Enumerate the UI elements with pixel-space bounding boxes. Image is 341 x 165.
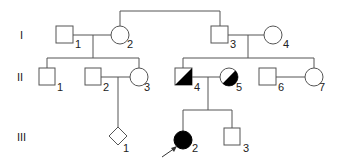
- generation-label-i: I: [20, 29, 23, 41]
- generation-label-iii: III: [17, 131, 26, 143]
- individual-i3-male-symbol: [211, 26, 228, 43]
- number-iii2: 2: [192, 142, 198, 154]
- individual-ii1-male-symbol: [39, 68, 55, 85]
- proband-arrow-icon: [162, 146, 177, 157]
- number-ii3: 3: [144, 81, 150, 93]
- number-ii5: 5: [236, 81, 242, 93]
- number-ii4: 4: [194, 81, 200, 93]
- individual-i1-male-symbol: [56, 26, 73, 43]
- number-ii6: 6: [278, 81, 284, 93]
- generation-label-ii: II: [17, 71, 23, 83]
- number-i3: 3: [230, 38, 236, 50]
- number-ii7: 7: [319, 81, 325, 93]
- number-iii1: 1: [123, 142, 129, 154]
- number-i2: 2: [127, 38, 133, 50]
- individual-iii3-male-symbol: [224, 128, 240, 145]
- number-i4: 4: [283, 38, 289, 50]
- number-iii3: 3: [243, 142, 249, 154]
- pedigree-diagram: I II III 1 2 3 4 1 2 3 4 5 6 7 1 2 3: [0, 0, 341, 165]
- individual-i4-female-symbol: [264, 26, 282, 44]
- number-ii2: 2: [103, 81, 109, 93]
- individual-ii2-male-symbol: [85, 68, 101, 85]
- number-ii1: 1: [57, 81, 63, 93]
- sibship-line-left: [47, 58, 139, 68]
- number-i1: 1: [75, 38, 81, 50]
- sibship-line-right: [183, 58, 314, 68]
- inter-family-connector: [120, 11, 220, 26]
- individual-ii6-male-symbol: [259, 68, 276, 85]
